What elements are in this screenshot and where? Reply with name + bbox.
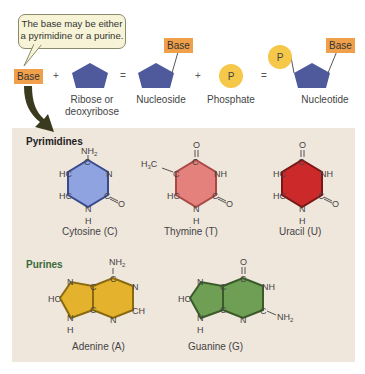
svg-text:C: C [260, 306, 267, 316]
nucleoside-base-box: Base [164, 38, 193, 53]
uracil-label: Uracil (U) [279, 226, 321, 237]
thymine-structure: O C NH C O N H C H3C HC [140, 140, 240, 232]
svg-text:O: O [118, 199, 125, 209]
svg-text:C: C [90, 282, 97, 292]
svg-text:H: H [197, 325, 204, 335]
svg-text:HC: HC [273, 169, 286, 179]
svg-text:C: C [84, 157, 91, 167]
svg-text:N: N [193, 204, 200, 214]
svg-text:N: N [299, 204, 306, 214]
svg-text:N: N [240, 315, 247, 325]
ribose-pentagon-icon [70, 62, 110, 90]
svg-text:H: H [299, 216, 306, 226]
svg-text:H: H [67, 325, 74, 335]
svg-text:HC: HC [167, 191, 180, 201]
svg-text:HC: HC [273, 191, 286, 201]
svg-text:HC: HC [59, 191, 72, 201]
cytosine-label: Cytosine (C) [62, 226, 118, 237]
svg-text:N: N [85, 204, 92, 214]
svg-text:P: P [228, 71, 235, 82]
svg-text:O: O [226, 199, 233, 209]
svg-text:C: C [220, 282, 227, 292]
nucleotide-base-box: Base [326, 38, 355, 53]
uracil-structure: O C NH C O N H HC HC [246, 140, 346, 232]
svg-text:P: P [277, 52, 284, 63]
nucleoside-label: Nucleoside [126, 94, 196, 106]
phosphate-circle-icon: P [218, 63, 244, 89]
svg-text:HC: HC [178, 294, 191, 304]
svg-text:HC: HC [59, 169, 72, 179]
svg-text:N: N [67, 277, 74, 287]
thymine-label: Thymine (T) [164, 226, 218, 237]
svg-text:N: N [197, 313, 204, 323]
svg-text:O: O [240, 257, 247, 267]
plus-sign: + [53, 70, 59, 81]
phosphate-label: Phosphate [200, 94, 262, 106]
svg-text:O: O [299, 140, 306, 150]
svg-text:H: H [193, 216, 200, 226]
adenine-structure: NH2 C N CH N C C N HC N H [38, 256, 158, 340]
equals-sign: = [120, 70, 126, 81]
svg-text:NH2: NH2 [109, 257, 126, 268]
svg-text:CH: CH [132, 306, 145, 316]
guanine-label: Guanine (G) [188, 341, 243, 352]
svg-text:C: C [173, 169, 180, 179]
svg-text:H: H [85, 216, 92, 226]
svg-text:O: O [193, 140, 200, 150]
svg-text:NH2: NH2 [277, 312, 294, 323]
svg-text:N: N [132, 282, 139, 292]
svg-text:C: C [192, 157, 199, 167]
svg-text:N: N [197, 277, 204, 287]
svg-text:HC: HC [48, 294, 61, 304]
adenine-label: Adenine (A) [72, 341, 125, 352]
callout-line-2: a pyrimidine or a purine. [19, 30, 125, 42]
svg-text:NH2: NH2 [81, 146, 98, 157]
svg-text:N: N [67, 313, 74, 323]
guanine-structure: O C NH C NH2 N C C N HC N H [168, 256, 318, 340]
svg-text:C: C [240, 274, 247, 284]
svg-text:NH: NH [214, 169, 227, 179]
sugar-label: Ribose or deoxyribose [56, 94, 128, 118]
svg-text:C: C [220, 305, 227, 315]
curved-arrow-icon [18, 82, 58, 138]
svg-text:N: N [106, 169, 113, 179]
svg-text:NH: NH [320, 169, 333, 179]
callout-line-1: The base may be either [19, 18, 125, 30]
nucleotide-label: Nucleotide [290, 94, 360, 106]
svg-text:NH: NH [262, 282, 275, 292]
svg-text:C: C [90, 305, 97, 315]
plus-sign-2: + [195, 70, 201, 81]
svg-text:O: O [332, 199, 339, 209]
cytosine-structure: NH2 C N C O N H HC HC [40, 140, 130, 232]
svg-text:N: N [110, 315, 117, 325]
svg-text:C: C [110, 274, 117, 284]
callout-pointer [20, 44, 50, 69]
svg-text:H3C: H3C [141, 159, 158, 170]
svg-text:C: C [298, 157, 305, 167]
